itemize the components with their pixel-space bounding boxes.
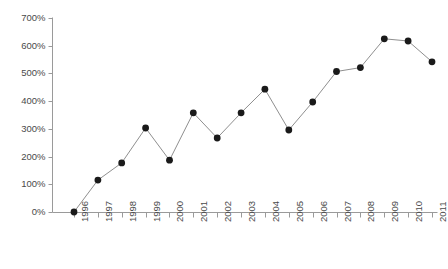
x-tick-label: 1997 [103, 201, 114, 222]
data-point [190, 109, 197, 116]
x-tick-label: 2008 [365, 201, 376, 222]
data-point [333, 68, 340, 75]
y-tick-label: 100% [21, 178, 45, 189]
data-point [118, 160, 125, 167]
data-point [309, 99, 316, 106]
x-tick-label: 2001 [198, 201, 209, 222]
data-point [166, 157, 173, 164]
data-line [74, 39, 432, 212]
data-point [357, 64, 364, 71]
data-point [285, 127, 292, 134]
data-point [429, 58, 436, 65]
data-point [142, 125, 149, 132]
y-tick-label: 200% [21, 151, 45, 162]
y-tick-label: 500% [21, 67, 45, 78]
x-tick-label: 2002 [222, 201, 233, 222]
x-tick-label: 1996 [79, 201, 90, 222]
x-tick-label: 2003 [246, 201, 257, 222]
y-axis-ticks [49, 19, 53, 213]
y-tick-label: 700% [21, 12, 45, 23]
x-tick-label: 2010 [413, 201, 424, 222]
x-tick-label: 2006 [318, 201, 329, 222]
x-tick-label: 2004 [270, 201, 281, 222]
x-tick-label: 2007 [342, 201, 353, 222]
data-point [381, 35, 388, 42]
axis-lines [53, 18, 438, 213]
x-tick-label: 1999 [151, 201, 162, 222]
x-tick-label: 2005 [294, 201, 305, 222]
y-tick-label: 0% [32, 206, 46, 217]
data-point [238, 109, 245, 116]
data-point [405, 38, 412, 45]
data-point [214, 135, 221, 142]
data-point [262, 86, 269, 93]
x-tick-label: 1998 [127, 201, 138, 222]
x-tick-label: 2011 [437, 202, 448, 222]
data-point [95, 177, 102, 184]
footer-artifact [232, 258, 412, 267]
data-point [71, 209, 78, 216]
x-tick-label: 2009 [389, 201, 400, 222]
y-tick-label: 300% [21, 123, 45, 134]
y-tick-label: 600% [21, 40, 45, 51]
y-tick-label: 400% [21, 95, 45, 106]
data-markers [71, 35, 436, 215]
x-tick-label: 2000 [174, 201, 185, 222]
